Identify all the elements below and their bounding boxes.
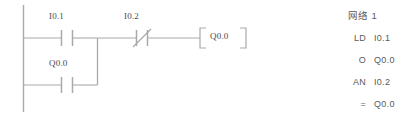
stl-operand: Q0.0 [374,99,395,109]
ladder-diagram: I0.1 I0.2 Q0.0 Q0.0 [0,0,300,120]
stl-instruction-row: O Q0.0 [344,55,418,69]
stl-operand: I0.1 [374,33,390,43]
stl-operand: I0.2 [374,77,390,87]
plc-ladder-screenshot: I0.1 I0.2 Q0.0 Q0.0 网络 1 LD I0.1 O Q0.0 … [0,0,418,120]
stl-operator: = [344,99,366,109]
ladder-diagram-canvas [0,0,300,120]
stl-operator: O [344,55,366,65]
network-heading: 网络 1 [348,8,377,22]
contact-label-i02: I0.2 [124,11,139,21]
contact-label-q00: Q0.0 [49,58,68,68]
statement-list-panel: 网络 1 LD I0.1 O Q0.0 AN I0.2 = Q0.0 [344,0,418,120]
stl-instruction-row: LD I0.1 [344,33,418,47]
coil-bracket-left[interactable] [200,28,206,48]
stl-instruction-row: AN I0.2 [344,77,418,91]
stl-operand: Q0.0 [374,55,395,65]
stl-operator: AN [344,77,366,87]
contact-label-i01: I0.1 [49,11,64,21]
stl-operator: LD [344,33,366,43]
coil-label-q00: Q0.0 [210,31,229,41]
stl-instruction-row: = Q0.0 [344,99,418,113]
coil-bracket-right[interactable] [240,28,246,48]
